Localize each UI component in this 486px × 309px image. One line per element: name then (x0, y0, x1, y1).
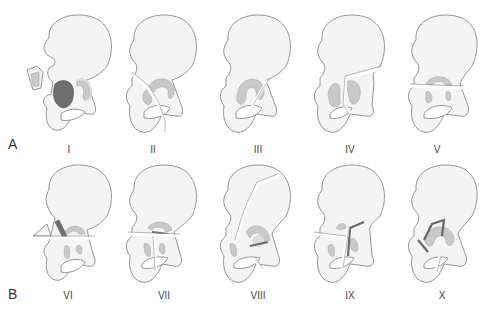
type-label-iii: III (238, 144, 278, 155)
type-label-iv: IV (330, 144, 370, 155)
type-label-ix: IX (330, 290, 370, 301)
type-label-v: V (417, 144, 457, 155)
pelvis-figure-ix (306, 158, 396, 286)
pelvis-figure-iv (306, 8, 396, 136)
pelvis-figure-ii (118, 8, 208, 136)
row-label-b: B (8, 286, 17, 302)
type-label-viii: VIII (238, 290, 278, 301)
type-label-x: X (422, 290, 462, 301)
type-label-vi: VI (48, 290, 88, 301)
type-label-vii: VII (144, 290, 184, 301)
pelvis-figure-v (400, 8, 486, 136)
type-label-ii: II (133, 144, 173, 155)
pelvis-figure-i (25, 8, 115, 136)
pelvis-figure-x (400, 158, 486, 286)
pelvis-figure-vii (118, 158, 208, 286)
pelvis-figure-viii (212, 158, 302, 286)
pelvis-figure-iii (212, 8, 302, 136)
type-label-i: I (49, 144, 89, 155)
pelvis-figure-vi (25, 158, 115, 286)
row-label-a: A (8, 136, 17, 152)
